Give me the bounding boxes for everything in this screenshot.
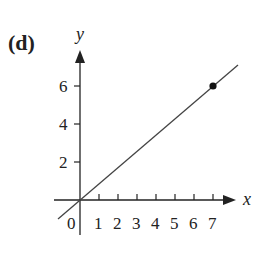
y-axis-arrow-icon [75,50,85,63]
y-tick-4: 4 [59,115,68,134]
x-tick-0: 0 [67,214,76,233]
figure-panel-d: (d) y 2 4 6 x 0 1 2 3 [0,0,266,265]
x-axis: x 0 1 2 3 4 5 6 7 [54,189,251,233]
y-tick-2: 2 [59,153,68,172]
y-ticks: 2 4 6 [59,77,80,172]
x-tick-2: 2 [113,214,122,233]
data-point-7-6 [209,82,216,89]
x-tick-6: 6 [189,214,198,233]
x-axis-arrow-icon [223,195,236,205]
x-tick-5: 5 [170,214,179,233]
y-axis-label: y [74,24,84,44]
x-tick-1: 1 [94,214,103,233]
x-axis-label: x [242,189,251,209]
panel-label: (d) [8,30,35,55]
x-tick-4: 4 [151,214,160,233]
y-axis: y 2 4 6 [59,24,85,235]
x-tick-3: 3 [132,214,141,233]
y-tick-6: 6 [59,77,68,96]
x-tick-7: 7 [208,214,217,233]
